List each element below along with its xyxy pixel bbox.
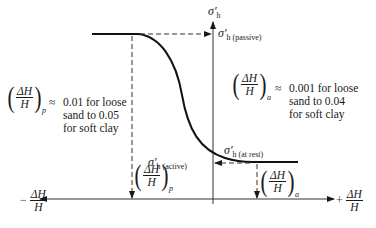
active-strain-note-fraction: ( ΔHH ) a	[231, 69, 271, 99]
passive-strain-note: 0.01 for loose sand to 0.05 for soft cla…	[63, 96, 127, 135]
passive-strain-marker: ( ΔHH ) p	[133, 160, 173, 190]
x-axis-negative-label: − ΔHH	[20, 188, 47, 213]
passive-approx-sign: ≈	[49, 96, 55, 109]
x-axis-positive-label: + ΔHH	[336, 188, 363, 213]
y-axis-label: σ′h	[208, 5, 221, 22]
passive-point-label: σ′h(passive)	[218, 27, 261, 44]
active-strain-marker: ( ΔHH ) a	[259, 166, 299, 196]
at-rest-point-label: σ′h(at rest)	[224, 144, 263, 161]
active-approx-sign: ≈	[275, 82, 281, 95]
pressure-curve	[138, 34, 298, 162]
passive-strain-note-fraction: ( ΔHH ) p	[6, 82, 46, 112]
active-strain-note: 0.001 for loose sand to 0.04 for soft cl…	[289, 82, 358, 121]
earth-pressure-diagram: σ′h σ′h(passive) σ′h(at rest) σ′h(active…	[0, 0, 376, 228]
